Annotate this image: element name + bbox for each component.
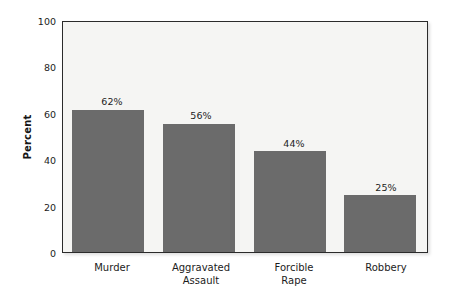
x-tick-label-aggravated-assault: Aggravated Assault	[172, 262, 230, 287]
x-tick-label-robbery: Robbery	[365, 262, 407, 275]
y-tick-label-0: 0	[50, 248, 56, 259]
bar-aggravated-assault	[163, 124, 235, 252]
value-label-murder: 62%	[101, 96, 122, 107]
y-tick-label-40: 40	[44, 155, 56, 166]
bar-murder	[72, 110, 144, 252]
x-tick-label-murder: Murder	[94, 262, 130, 275]
y-tick-label-100: 100	[38, 16, 56, 27]
bar-robbery	[344, 195, 416, 252]
plot-area	[62, 21, 428, 253]
value-label-aggravated-assault: 56%	[190, 110, 211, 121]
bars-layer	[63, 22, 427, 252]
y-tick-label-20: 20	[44, 201, 56, 212]
value-label-robbery: 25%	[375, 182, 396, 193]
value-label-forcible-rape: 44%	[283, 138, 304, 149]
y-axis: 100 80 60 40 20 0	[0, 0, 56, 297]
x-tick-label-forcible-rape: Forcible Rape	[275, 262, 314, 287]
bar-forcible-rape	[254, 151, 326, 252]
bar-chart: Percent 100 80 60 40 20 0 62% 56% 44% 25…	[0, 0, 458, 297]
y-tick-label-60: 60	[44, 108, 56, 119]
y-tick-label-80: 80	[44, 62, 56, 73]
